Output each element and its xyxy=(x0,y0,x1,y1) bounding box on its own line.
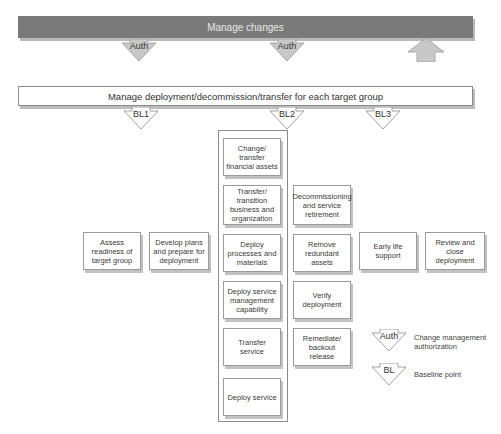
early-life-support-box: Early life support xyxy=(359,232,417,270)
review-close-box: Review and close deployment xyxy=(425,232,485,270)
deploy-service-box: Deploy service xyxy=(223,378,281,416)
baseline-arrow-label: BL3 xyxy=(366,109,400,119)
return-arrow-up-icon xyxy=(408,38,444,62)
auth-arrow-label: Auth xyxy=(122,41,156,51)
box-label: Change/ transfer financial assets xyxy=(226,144,278,171)
legend-auth-symbol: Auth xyxy=(372,331,406,341)
box-label: Transfer service xyxy=(226,338,278,356)
manage-deployment-bar: Manage deployment/decommission/transfer … xyxy=(18,86,473,106)
manage-changes-bar: Manage changes xyxy=(18,16,473,38)
baseline-arrow-icon: BL2 xyxy=(270,107,304,129)
baseline-arrow-label: BL1 xyxy=(124,109,158,119)
auth-arrow-down-icon: Auth xyxy=(270,39,304,61)
baseline-arrow-icon: BL3 xyxy=(366,107,400,129)
transfer-service-box: Transfer service xyxy=(223,328,281,366)
develop-plans-box: Develop plans and prepare for deployment xyxy=(149,232,209,270)
legend-auth-description: Change management authorization xyxy=(414,333,499,352)
legend-baseline-symbol: BL xyxy=(372,365,406,375)
transfer-business-box: Transfer/ transition business and organi… xyxy=(223,185,281,225)
auth-arrow-label: Auth xyxy=(270,41,304,51)
baseline-arrow-icon: BL1 xyxy=(124,107,158,129)
remove-redundant-assets-box: Remove redundant assets xyxy=(293,234,351,272)
box-label: Remove redundant assets xyxy=(296,240,348,267)
box-label: Verify deployment xyxy=(296,291,348,309)
deploy-service-management-box: Deploy service management capability xyxy=(223,281,281,319)
box-label: Assess readiness of target group xyxy=(86,238,138,265)
box-label: Deploy processes and materials xyxy=(226,240,278,267)
box-label: Deploy service management capability xyxy=(226,287,278,314)
manage-changes-label: Manage changes xyxy=(207,22,284,33)
manage-deployment-label: Manage deployment/decommission/transfer … xyxy=(108,91,383,102)
legend-baseline-description: Baseline point xyxy=(414,370,499,379)
auth-arrow-down-icon: Auth xyxy=(122,39,156,61)
box-label: Develop plans and prepare for deployment xyxy=(152,238,206,265)
deploy-processes-box: Deploy processes and materials xyxy=(223,234,281,272)
assess-readiness-box: Assess readiness of target group xyxy=(83,232,141,270)
verify-deployment-box: Verify deployment xyxy=(293,281,351,319)
legend-baseline-arrow-icon: BL xyxy=(372,363,406,385)
box-label: Remediate/ backout release xyxy=(296,334,348,361)
box-label: Early life support xyxy=(362,242,414,260)
legend-auth-arrow-icon: Auth xyxy=(372,329,406,351)
change-financial-assets-box: Change/ transfer financial assets xyxy=(223,138,281,176)
baseline-arrow-label: BL2 xyxy=(270,109,304,119)
box-label: Deploy service xyxy=(227,393,276,402)
box-label: Transfer/ transition business and organi… xyxy=(226,187,278,223)
box-label: Decommissioning and service retirement xyxy=(292,192,351,219)
remediate-backout-box: Remediate/ backout release xyxy=(293,328,351,366)
decommissioning-box: Decommissioning and service retirement xyxy=(293,185,351,225)
box-label: Review and close deployment xyxy=(428,238,482,265)
